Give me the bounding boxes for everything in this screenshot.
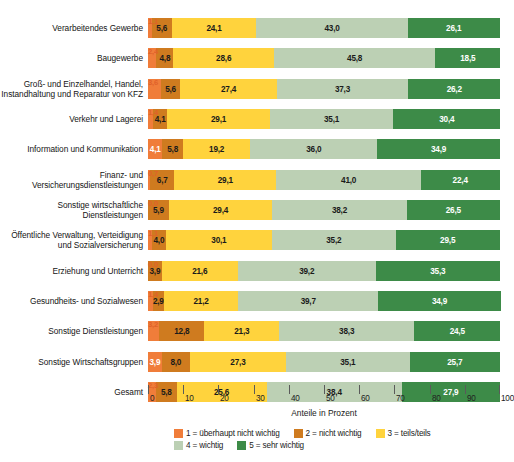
- bar-segment-3: 29,1: [174, 170, 276, 190]
- segment-value: 27,3: [230, 358, 245, 367]
- row-label-line: Versicherungsdienstleistungen: [0, 180, 143, 190]
- segment-value: 24,5: [450, 327, 465, 336]
- bar-segment-2: 5,6: [161, 79, 181, 99]
- bar-segment-3: 27,3: [190, 352, 286, 372]
- segment-callout-value: 0,7: [148, 169, 158, 178]
- segment-value: 25,7: [447, 358, 462, 367]
- row-label: Gesamt: [0, 387, 143, 397]
- axis-tick-label: 0: [150, 394, 154, 403]
- axis-tick: [289, 385, 290, 394]
- bar-segment-1: 3,9: [148, 352, 162, 372]
- legend-item[interactable]: 4 = wichtig: [174, 441, 223, 450]
- segment-value: 26,2: [447, 85, 462, 94]
- bar-segment-2: 8,0: [162, 352, 190, 372]
- stacked-bar: 3,65,627,437,326,2: [148, 79, 500, 99]
- segment-callout-value: 0,0: [148, 199, 158, 208]
- segment-value: 36,0: [306, 145, 321, 154]
- row-label-line: Öffentliche Verwaltung, Verteidigung: [0, 230, 143, 240]
- bar-segment-4: 38,3: [279, 321, 414, 341]
- segment-value: 34,9: [432, 297, 447, 306]
- stacked-bar: 1,15,624,143,026,1: [148, 18, 500, 38]
- axis-tick: [394, 385, 395, 394]
- segment-value: 22,4: [453, 176, 468, 185]
- x-axis: 0102030405060708090100: [148, 385, 500, 407]
- legend-swatch-icon: [174, 441, 183, 450]
- bar-segment-5: 30,4: [393, 109, 500, 129]
- bar-segment-5: 26,5: [407, 200, 500, 220]
- axis-tick: [499, 385, 500, 394]
- bar-segment-4: 38,2: [272, 200, 406, 220]
- row-label: Erziehung und Unterricht: [0, 266, 143, 276]
- segment-value: 43,0: [325, 24, 340, 33]
- segment-callout-value: 1,4: [148, 108, 158, 117]
- row-label-line: Verkehr und Lagerei: [0, 114, 143, 124]
- segment-value: 29,1: [211, 115, 226, 124]
- row-label: Verarbeitendes Gewerbe: [0, 23, 143, 33]
- chart-legend: 1 = überhaupt nicht wichtig2 = nicht wic…: [148, 429, 500, 453]
- segment-value: 18,5: [460, 54, 475, 63]
- segment-callout-value: 1,1: [148, 17, 158, 26]
- row-label-line: Gesamt: [0, 387, 143, 397]
- stacked-bar: 3,212,821,338,324,5: [148, 321, 500, 341]
- segment-callout-value: 1,1: [148, 229, 158, 238]
- segment-value: 35,1: [340, 358, 355, 367]
- row-label: Groß- und Einzelhandel, Handel,Instandha…: [0, 79, 143, 99]
- axis-tick-label: 30: [256, 394, 265, 403]
- bar-segment-5: 22,4: [421, 170, 500, 190]
- row-label-line: Baugewerbe: [0, 53, 143, 63]
- bar-segment-5: 35,3: [376, 261, 500, 281]
- legend-item[interactable]: 2 = nicht wichtig: [294, 429, 362, 438]
- segment-value: 29,1: [218, 176, 233, 185]
- row-label-line: Instandhaltung und Reparatur von KFZ: [0, 89, 143, 99]
- bar-segment-3: 27,4: [180, 79, 276, 99]
- bar-segment-3: 24,1: [172, 18, 257, 38]
- stacked-bar: 0,76,729,141,022,4: [148, 170, 500, 190]
- segment-value: 28,6: [216, 54, 231, 63]
- stacked-bar: 1,44,129,135,130,4: [148, 109, 500, 129]
- bar-segment-4: 39,2: [238, 261, 376, 281]
- segment-callout-value: 3,6: [148, 78, 158, 87]
- segment-value: 21,2: [193, 297, 208, 306]
- axis-tick-label: 90: [467, 394, 476, 403]
- row-label: Verkehr und Lagerei: [0, 114, 143, 124]
- row-label: Baugewerbe: [0, 53, 143, 63]
- bar-segment-4: 39,7: [238, 291, 378, 311]
- row-label: Öffentliche Verwaltung, Verteidigungund …: [0, 230, 143, 250]
- row-label-line: Sonstige Wirtschaftsgruppen: [0, 357, 143, 367]
- legend-swatch-icon: [237, 441, 246, 450]
- bar-segment-2: 5,8: [162, 139, 182, 159]
- bar-segment-3: 30,1: [166, 230, 272, 250]
- segment-value: 24,1: [206, 24, 221, 33]
- axis-tick-label: 70: [396, 394, 405, 403]
- segment-value: 30,4: [439, 115, 454, 124]
- legend-label: 5 = sehr wichtig: [249, 441, 304, 450]
- bar-segment-2: 12,8: [159, 321, 204, 341]
- bar-segment-3: 19,2: [183, 139, 251, 159]
- segment-value: 26,1: [446, 24, 461, 33]
- legend-item[interactable]: 1 = überhaupt nicht wichtig: [174, 429, 280, 438]
- row-label-line: Verarbeitendes Gewerbe: [0, 23, 143, 33]
- legend-label: 2 = nicht wichtig: [306, 429, 362, 438]
- segment-value: 3,9: [149, 358, 160, 367]
- segment-value: 37,3: [335, 85, 350, 94]
- segment-callout-value: 3,2: [148, 320, 158, 329]
- legend-item[interactable]: 5 = sehr wichtig: [237, 441, 304, 450]
- segment-value: 8,0: [170, 358, 181, 367]
- segment-value: 35,3: [430, 267, 445, 276]
- bar-segment-1: 4,1: [148, 139, 162, 159]
- bar-segment-5: 34,9: [378, 291, 501, 311]
- segment-callout-value: 0,0: [148, 260, 158, 269]
- legend-item[interactable]: 3 = teils/teils: [376, 429, 431, 438]
- axis-tick: [359, 385, 360, 394]
- segment-callout-value: 2,4: [148, 47, 158, 56]
- bar-segment-5: 34,9: [377, 139, 500, 159]
- segment-value: 5,6: [165, 85, 176, 94]
- row-label-line: Sonstige wirtschaftliche: [0, 200, 143, 210]
- segment-value: 26,5: [446, 206, 461, 215]
- row-label: Finanz- undVersicherungsdienstleistungen: [0, 170, 143, 190]
- segment-value: 39,2: [299, 267, 314, 276]
- axis-tick-label: 50: [326, 394, 335, 403]
- stacked-bar: 2,44,828,645,818,5: [148, 48, 500, 68]
- segment-value: 34,9: [431, 145, 446, 154]
- segment-value: 4,8: [159, 54, 170, 63]
